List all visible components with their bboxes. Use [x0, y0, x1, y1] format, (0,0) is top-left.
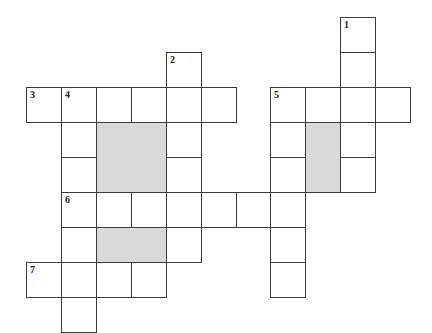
- cell[interactable]: [201, 192, 237, 228]
- cell[interactable]: [61, 297, 97, 333]
- cell[interactable]: [166, 192, 202, 228]
- cell[interactable]: [96, 192, 132, 228]
- cell[interactable]: [340, 87, 376, 123]
- cell[interactable]: [166, 87, 202, 123]
- clue-number: 5: [274, 89, 279, 101]
- cell[interactable]: [236, 192, 272, 228]
- cell[interactable]: [201, 87, 237, 123]
- cell-6[interactable]: 6: [61, 192, 97, 228]
- cell[interactable]: [270, 192, 306, 228]
- cell[interactable]: [375, 87, 411, 123]
- cell[interactable]: [305, 87, 341, 123]
- cell[interactable]: [340, 157, 376, 193]
- cell[interactable]: [61, 122, 97, 158]
- clue-number: 3: [30, 89, 35, 101]
- shaded-block: [305, 122, 341, 193]
- cell[interactable]: [270, 227, 306, 263]
- clue-number: 6: [65, 194, 70, 206]
- clue-number: 7: [30, 264, 35, 276]
- cell[interactable]: [166, 227, 202, 263]
- cell[interactable]: [61, 157, 97, 193]
- cell[interactable]: [270, 122, 306, 158]
- cell[interactable]: [340, 122, 376, 158]
- cell-7[interactable]: 7: [26, 262, 62, 298]
- cell[interactable]: [61, 227, 97, 263]
- cell-2[interactable]: 2: [166, 52, 202, 88]
- clue-number: 4: [65, 89, 70, 101]
- cell[interactable]: [166, 122, 202, 158]
- cell-4[interactable]: 4: [61, 87, 97, 123]
- shaded-block: [96, 227, 167, 263]
- cell[interactable]: [270, 262, 306, 298]
- cell[interactable]: [96, 87, 132, 123]
- cell-5[interactable]: 5: [270, 87, 306, 123]
- cell[interactable]: [340, 52, 376, 88]
- cell[interactable]: [96, 262, 132, 298]
- clue-number: 1: [344, 19, 349, 31]
- cell[interactable]: [166, 157, 202, 193]
- cell[interactable]: [131, 87, 167, 123]
- cell[interactable]: [131, 192, 167, 228]
- cell-3[interactable]: 3: [26, 87, 62, 123]
- cell-1[interactable]: 1: [340, 17, 376, 53]
- clue-number: 2: [170, 54, 175, 66]
- cell[interactable]: [131, 262, 167, 298]
- shaded-block: [96, 122, 167, 193]
- cell[interactable]: [270, 157, 306, 193]
- cell[interactable]: [61, 262, 97, 298]
